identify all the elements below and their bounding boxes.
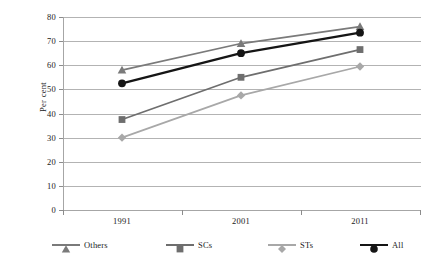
legend: Others SCs STs	[0, 236, 438, 254]
data-point-all-1991	[118, 79, 126, 87]
series-others	[118, 22, 365, 73]
data-point-all-2001	[237, 49, 245, 57]
legend-marker-circle-icon	[360, 239, 388, 251]
data-point-all-2011	[356, 29, 364, 37]
data-point-sts-2001	[237, 91, 245, 99]
legend-item-sts[interactable]: STs	[268, 236, 313, 254]
legend-label-all: All	[392, 240, 403, 250]
legend-marker-diamond-icon	[268, 239, 296, 251]
data-point-sts-2011	[356, 62, 364, 70]
legend-item-scs[interactable]: SCs	[166, 236, 212, 254]
series-line-scs	[122, 50, 360, 120]
legend-label-sts: STs	[300, 240, 313, 250]
legend-item-others[interactable]: Others	[52, 236, 108, 254]
legend-item-all[interactable]: All	[360, 236, 403, 254]
legend-label-others: Others	[84, 240, 108, 250]
data-point-scs-1991	[119, 116, 126, 123]
series-line-others	[122, 27, 360, 70]
series-scs	[119, 46, 364, 123]
legend-marker-triangle-icon	[52, 239, 80, 251]
data-point-sts-1991	[118, 133, 126, 141]
series-layer	[0, 0, 438, 261]
legend-label-scs: SCs	[198, 240, 212, 250]
line-chart: Per cent 80 70 60 50 40 30 20 10 0	[0, 0, 438, 261]
data-point-scs-2001	[238, 74, 245, 81]
data-point-scs-2011	[357, 46, 364, 53]
legend-marker-square-icon	[166, 239, 194, 251]
